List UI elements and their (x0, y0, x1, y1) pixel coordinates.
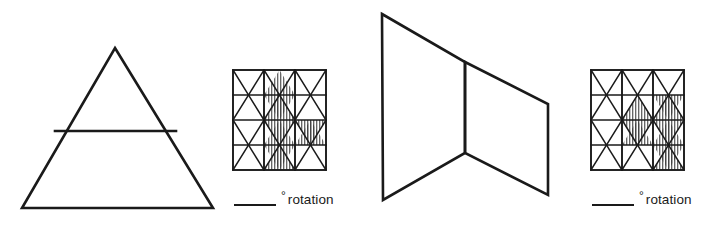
grid-stage-2: ° rotation (584, 0, 718, 230)
rotation-answer-blank-1[interactable] (234, 204, 276, 206)
degree-symbol-1: ° (281, 190, 286, 202)
chevron-right-panel (465, 62, 548, 195)
problem-panel-1: ° rotation (0, 0, 360, 230)
problem-panel-2: ° rotation (358, 0, 718, 230)
triangle-with-horizontal-chord-figure (0, 0, 228, 230)
answer-row-2: ° rotation (592, 186, 718, 212)
grid-stage-1: ° rotation (226, 0, 360, 230)
figure-stage-1 (0, 0, 228, 230)
answer-row-1: ° rotation (234, 186, 360, 212)
degree-symbol-2: ° (639, 190, 644, 202)
worksheet-canvas: ° rotation (0, 0, 718, 230)
rotation-answer-blank-2[interactable] (592, 204, 634, 206)
folded-quadrilateral-chevron-figure (358, 0, 586, 230)
chevron-left-panel (382, 14, 465, 200)
rotation-label-1: rotation (288, 192, 334, 207)
triangle-outline (22, 48, 213, 208)
rotation-label-2: rotation (646, 192, 692, 207)
figure-stage-2 (358, 0, 586, 230)
